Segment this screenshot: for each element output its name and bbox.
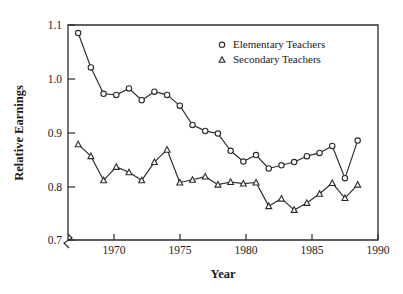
y-axis-title: Relative Earnings [12, 85, 26, 181]
chart-figure: 1.1 1.0 0.9 0.8 0.7 1970 1975 1980 1985 … [0, 0, 403, 294]
data-point-marker [126, 86, 131, 91]
data-point-marker [164, 92, 169, 97]
data-point-marker [114, 92, 119, 97]
data-point-marker [317, 150, 322, 155]
data-point-marker [75, 30, 80, 35]
data-point-marker [241, 159, 246, 164]
y-tick-label: 1.0 [48, 73, 63, 85]
legend-item-1[interactable]: Elementary Teachers [219, 38, 325, 50]
legend-item-2[interactable]: Secondary Teachers [219, 53, 321, 65]
relative-earnings-line-chart: 1.1 1.0 0.9 0.8 0.7 1970 1975 1980 1985 … [0, 0, 403, 294]
x-tick-label: 1970 [103, 244, 126, 256]
legend-label: Secondary Teachers [233, 53, 321, 65]
x-axis-title: Year [211, 267, 236, 281]
data-point-marker [330, 143, 335, 148]
data-point-marker [152, 89, 157, 94]
data-point-marker [190, 122, 195, 127]
data-point-marker [253, 152, 258, 157]
data-point-marker [228, 148, 233, 153]
data-point-marker [215, 131, 220, 136]
x-tick-label: 1985 [301, 244, 324, 256]
x-tick-label: 1980 [235, 244, 258, 256]
legend-label: Elementary Teachers [233, 38, 325, 50]
data-point-marker [355, 138, 360, 143]
data-point-marker [101, 91, 106, 96]
data-point-marker [279, 163, 284, 168]
legend-marker-circle-icon [219, 42, 224, 47]
y-tick-label: 0.9 [48, 127, 63, 139]
y-tick-label: 0.7 [48, 234, 63, 246]
chart-background [0, 0, 403, 294]
data-point-marker [203, 128, 208, 133]
data-point-marker [342, 175, 347, 180]
data-point-marker [139, 98, 144, 103]
y-tick-label: 1.1 [48, 19, 63, 31]
data-point-marker [291, 159, 296, 164]
data-point-marker [88, 65, 93, 70]
data-point-marker [266, 166, 271, 171]
data-point-marker [304, 153, 309, 158]
data-point-marker [177, 103, 182, 108]
x-tick-label: 1990 [367, 244, 390, 256]
x-tick-label: 1975 [169, 244, 192, 256]
y-tick-label: 0.8 [48, 181, 63, 193]
